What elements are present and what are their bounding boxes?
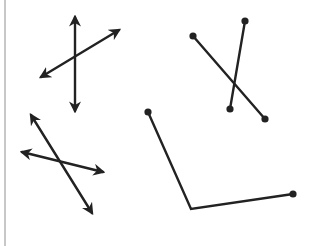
line-1: [31, 115, 92, 213]
angle-rays: [148, 112, 293, 209]
intersecting-lines-2: [22, 115, 103, 213]
endpoint-dot: [144, 108, 151, 115]
line-2: [22, 152, 103, 172]
geometry-diagram: [0, 0, 317, 246]
endpoint-dot: [189, 32, 196, 39]
segment-2: [230, 21, 245, 109]
intersecting-lines-1: [41, 17, 119, 111]
angle: [144, 108, 296, 209]
endpoint-dot: [289, 190, 296, 197]
endpoint-dot: [241, 17, 248, 24]
endpoint-dot: [226, 105, 233, 112]
endpoint-dot: [261, 115, 268, 122]
intersecting-segments: [189, 17, 268, 122]
line-2: [41, 30, 119, 77]
